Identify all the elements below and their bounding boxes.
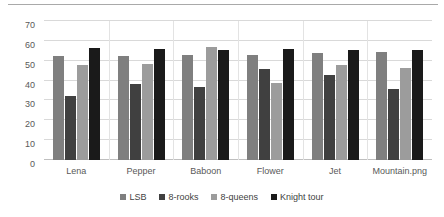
bar-group <box>173 21 238 160</box>
bar[interactable] <box>400 68 411 160</box>
bar-chart-figure: 010203040506070 LenaPepperBaboonFlowerJe… <box>0 0 444 217</box>
bar[interactable] <box>259 69 270 160</box>
bar[interactable] <box>89 48 100 160</box>
plot-area <box>44 21 432 160</box>
bar[interactable] <box>218 50 229 160</box>
bar[interactable] <box>77 65 88 160</box>
x-axis-tick-label: Baboon <box>173 164 238 178</box>
bar-group <box>44 21 109 160</box>
bar[interactable] <box>336 65 347 160</box>
legend-item[interactable]: 8-rooks <box>159 193 198 202</box>
bar[interactable] <box>412 50 423 160</box>
bar[interactable] <box>182 55 193 160</box>
bar[interactable] <box>206 47 217 160</box>
category-separator <box>238 21 239 160</box>
legend-item-label: LSB <box>129 193 146 202</box>
bar[interactable] <box>388 89 399 160</box>
bar[interactable] <box>324 75 335 160</box>
category-separator <box>367 21 368 160</box>
bar[interactable] <box>283 49 294 160</box>
legend-item[interactable]: LSB <box>120 193 146 202</box>
legend-swatch-icon <box>271 194 277 200</box>
bar[interactable] <box>312 53 323 160</box>
legend-item-label: Knight tour <box>280 193 324 202</box>
category-separator <box>109 21 110 160</box>
bar[interactable] <box>65 96 76 160</box>
bar[interactable] <box>271 83 282 160</box>
bar-group <box>303 21 368 160</box>
bar-group <box>367 21 432 160</box>
category-separator <box>303 21 304 160</box>
bar[interactable] <box>142 64 153 160</box>
bar[interactable] <box>53 56 64 160</box>
x-axis-tick-label: Lena <box>44 164 109 178</box>
x-axis: LenaPepperBaboonFlowerJetMountain.png <box>44 164 432 178</box>
y-axis: 010203040506070 <box>0 21 40 160</box>
legend-swatch-icon <box>120 194 126 200</box>
category-separator <box>173 21 174 160</box>
bar[interactable] <box>130 84 141 160</box>
bar[interactable] <box>118 56 129 160</box>
bar[interactable] <box>154 49 165 160</box>
legend-item-label: 8-rooks <box>168 193 198 202</box>
bar[interactable] <box>194 87 205 160</box>
legend-item[interactable]: 8-queens <box>211 193 258 202</box>
bar[interactable] <box>376 52 387 160</box>
legend-swatch-icon <box>211 194 217 200</box>
legend-swatch-icon <box>159 194 165 200</box>
x-axis-tick-label: Pepper <box>109 164 174 178</box>
x-axis-tick-label: Flower <box>238 164 303 178</box>
legend-item-label: 8-queens <box>220 193 258 202</box>
bar-group <box>109 21 174 160</box>
x-axis-tick-label: Mountain.png <box>367 164 432 178</box>
bar[interactable] <box>247 55 258 160</box>
bar-groups <box>44 21 432 160</box>
legend-item[interactable]: Knight tour <box>271 193 324 202</box>
chart-legend: LSB8-rooks8-queensKnight tour <box>0 190 444 204</box>
x-axis-tick-label: Jet <box>303 164 368 178</box>
figure-top-rule <box>8 4 438 5</box>
bar[interactable] <box>348 50 359 160</box>
bar-group <box>238 21 303 160</box>
